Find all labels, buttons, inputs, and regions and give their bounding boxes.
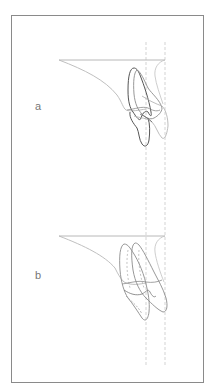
panel-a <box>59 60 168 146</box>
dashed-guides <box>146 42 165 365</box>
tooth-superimposition-drawing <box>0 0 218 391</box>
sweep-curve-a <box>59 60 146 111</box>
tooth-outline-light <box>134 96 168 138</box>
panel-b <box>59 236 167 320</box>
tooth-outline-b2 <box>132 243 167 312</box>
sweep-curve-b <box>59 236 146 284</box>
root-curve-b <box>155 236 165 282</box>
